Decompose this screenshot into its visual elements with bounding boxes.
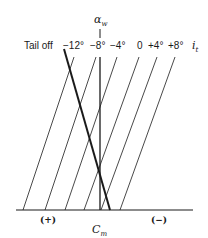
cm-subscript: m [100,230,107,238]
incidence-label-plus4: +4° [148,41,163,51]
tail-off-label: Tail off [24,41,53,51]
alpha-subscript: w [101,20,107,28]
pitching-moment-diagram: αw Tail off −12° −8° −4° 0 +4° +8° it (+… [0,0,208,238]
positive-label: (+) [40,216,56,225]
negative-label: (−) [151,216,167,225]
incidence-label-minus12: −12° [63,41,84,51]
it-subscript: t [196,46,199,54]
incidence-line-0 [84,57,139,210]
diagram-lines [0,0,208,238]
alpha-w-label: αw [94,14,107,28]
tail-off-line [64,49,110,210]
incidence-label-0: 0 [137,41,143,51]
incidence-label-minus8: −8° [90,41,105,51]
cm-label: Cm [92,224,107,238]
incidence-label-minus4: −4° [110,41,125,51]
incidence-line-plus8 [120,57,175,210]
incidence-label-plus8: +8° [168,41,183,51]
it-label: it [192,40,198,54]
incidence-line-minus12 [23,57,74,210]
